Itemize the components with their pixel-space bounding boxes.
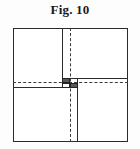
- lower-left-block: [62, 83, 70, 88]
- diagram-canvas: [13, 28, 128, 142]
- lower-right-block: [70, 83, 78, 88]
- figure-caption: Fig. 10: [0, 2, 140, 18]
- figure-container: Fig. 10: [0, 0, 140, 149]
- right-horizontal-partition: [62, 78, 128, 79]
